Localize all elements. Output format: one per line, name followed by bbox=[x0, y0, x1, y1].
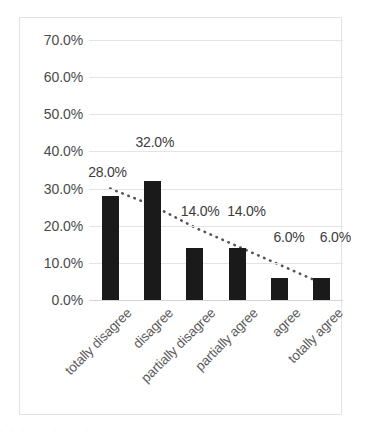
gridline bbox=[89, 151, 343, 152]
gridline bbox=[89, 263, 343, 264]
bar-data-label: 14.0% bbox=[181, 204, 220, 218]
trendline bbox=[89, 40, 343, 300]
y-axis-tick-label: 40.0% bbox=[44, 144, 83, 158]
y-axis-tick-label: 60.0% bbox=[44, 70, 83, 84]
bar-data-label: 6.0% bbox=[320, 230, 351, 244]
y-axis: 0.0%10.0%20.0%30.0%40.0%50.0%60.0%70.0% bbox=[39, 40, 83, 300]
bar bbox=[144, 181, 161, 300]
bar-data-label: 32.0% bbox=[136, 135, 175, 149]
y-axis-tick-label: 30.0% bbox=[44, 182, 83, 196]
bar bbox=[229, 248, 246, 300]
bar bbox=[271, 278, 288, 300]
bar-data-label: 28.0% bbox=[88, 165, 127, 179]
page-footer-artifact: · · · · · · · · · · bbox=[0, 424, 366, 439]
x-axis-tick-label: totally disagree bbox=[62, 306, 133, 377]
y-axis-tick-label: 10.0% bbox=[44, 256, 83, 270]
gridline bbox=[89, 226, 343, 227]
gridline bbox=[89, 40, 343, 41]
y-axis-tick-label: 50.0% bbox=[44, 107, 83, 121]
gridline bbox=[89, 189, 343, 190]
chart-container: 0.0%10.0%20.0%30.0%40.0%50.0%60.0%70.0% … bbox=[19, 17, 342, 415]
gridline bbox=[89, 77, 343, 78]
bar-data-label: 14.0% bbox=[227, 204, 266, 218]
plot-area: 28.0%32.0%14.0%14.0%6.0%6.0% bbox=[89, 40, 343, 300]
x-axis-tick-label: agree bbox=[270, 306, 303, 339]
bar-data-label: 6.0% bbox=[274, 230, 305, 244]
bar bbox=[102, 196, 119, 300]
y-axis-tick-label: 70.0% bbox=[44, 33, 83, 47]
bar bbox=[186, 248, 203, 300]
gridline bbox=[89, 114, 343, 115]
y-axis-tick-label: 0.0% bbox=[51, 293, 83, 307]
y-axis-tick-label: 20.0% bbox=[44, 219, 83, 233]
bar bbox=[313, 278, 330, 300]
x-axis: totally disagreedisagreepartially disagr… bbox=[89, 300, 343, 410]
